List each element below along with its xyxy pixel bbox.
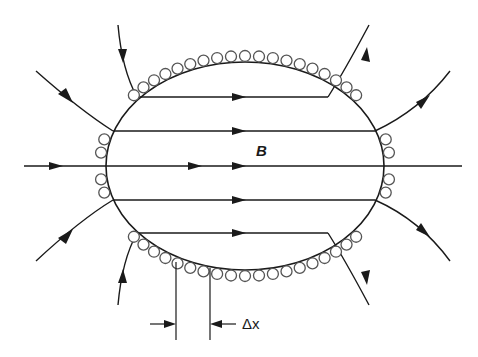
wire-icon: [341, 82, 352, 93]
wire-icon: [380, 134, 391, 145]
arrow-icons: [49, 93, 246, 237]
wire-icon: [212, 53, 223, 64]
wire-icon: [351, 231, 362, 242]
wire-icon: [138, 239, 149, 250]
wire-icon: [225, 51, 236, 62]
wire-icon: [319, 252, 330, 263]
wire-icon: [128, 90, 139, 101]
field-label-b: B: [256, 142, 267, 159]
wire-icon: [225, 270, 236, 281]
wire-icon: [185, 59, 196, 70]
wire-icon: [149, 75, 160, 86]
wire-icon: [383, 147, 394, 158]
wire-icon: [172, 258, 183, 269]
wire-icon: [351, 90, 362, 101]
spacing-arrow-icons: [164, 320, 222, 328]
wire-icon: [240, 271, 251, 282]
wire-icon: [96, 174, 107, 185]
spacing-label: Δx: [242, 315, 260, 332]
wire-icon: [294, 262, 305, 273]
wire-icon: [185, 262, 196, 273]
wire-icon: [307, 63, 318, 74]
wire-icon: [96, 147, 107, 158]
wire-icon: [281, 266, 292, 277]
wire-icon: [330, 75, 341, 86]
wire-icon: [128, 231, 139, 242]
wire-icon: [172, 63, 183, 74]
wire-icon: [254, 51, 265, 62]
wire-icon: [254, 270, 265, 281]
wire-icon: [267, 268, 278, 279]
wire-icon: [330, 246, 341, 257]
wire-icon: [160, 69, 171, 80]
wire-icon: [240, 51, 251, 62]
wire-icon: [212, 268, 223, 279]
wire-icon: [160, 252, 171, 263]
wire-icon: [307, 258, 318, 269]
field-diagram: [0, 0, 478, 357]
wire-icon: [149, 246, 160, 257]
wire-icon: [281, 55, 292, 66]
wire-icon: [198, 55, 209, 66]
wire-icon: [319, 69, 330, 80]
wire-icon: [138, 82, 149, 93]
wire-icon: [380, 187, 391, 198]
wire-icon: [99, 134, 110, 145]
wire-icon: [294, 59, 305, 70]
wire-icon: [198, 266, 209, 277]
wire-icon: [267, 53, 278, 64]
wire-icon: [341, 239, 352, 250]
wire-icon: [383, 174, 394, 185]
wire-icon: [99, 187, 110, 198]
interior-field-lines: [24, 97, 462, 233]
exterior-field-lines: [36, 25, 450, 305]
